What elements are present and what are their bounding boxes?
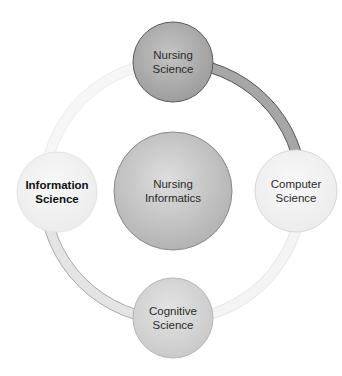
label-nursing-informatics: Nursing Informatics: [145, 177, 201, 205]
label-line-1: Computer: [271, 177, 322, 191]
label-nursing-science: Nursing Science: [153, 48, 194, 76]
label-computer-science: Computer Science: [271, 177, 322, 205]
label-information-science: Information Science: [25, 178, 88, 206]
label-line-2: Science: [271, 191, 322, 205]
label-line-2: Science: [149, 318, 197, 332]
label-line-2: Science: [25, 192, 88, 206]
label-line-1: Information: [25, 178, 88, 192]
label-line-1: Cognitive: [149, 304, 197, 318]
label-line-2: Informatics: [145, 191, 201, 205]
label-cognitive-science: Cognitive Science: [149, 304, 197, 332]
label-line-1: Nursing: [153, 48, 194, 62]
informatics-diagram: Nursing Informatics Nursing Science Comp…: [0, 0, 342, 376]
label-line-1: Nursing: [145, 177, 201, 191]
label-line-2: Science: [153, 62, 194, 76]
